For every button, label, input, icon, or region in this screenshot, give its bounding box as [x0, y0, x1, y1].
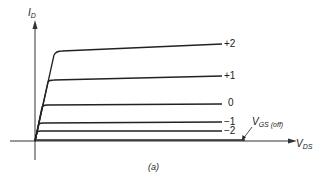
y-axis-arrow-icon	[33, 20, 38, 29]
curve-label-plus1: +1	[224, 71, 235, 81]
figure-caption: (a)	[148, 163, 159, 172]
x-axis-label: VDS	[296, 139, 312, 150]
cutoff-label: VGS (off)	[252, 117, 283, 128]
curve-vgs-plus2	[35, 44, 222, 141]
curve-label-plus2: +2	[224, 39, 235, 49]
y-axis-label: ID	[28, 8, 36, 19]
curve-label-minus2: −2	[224, 126, 235, 136]
curve-label-0: 0	[228, 98, 234, 108]
